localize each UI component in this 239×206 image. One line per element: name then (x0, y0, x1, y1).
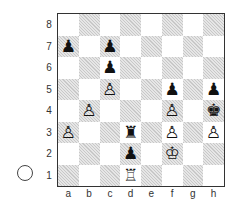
square-f4[interactable]: ♙ (162, 100, 183, 122)
square-e2[interactable] (141, 143, 162, 165)
file-label-g: g (183, 188, 203, 199)
rank-label-8: 8 (44, 19, 54, 30)
rank-label-4: 4 (44, 105, 54, 116)
square-f2[interactable]: ♔ (162, 143, 183, 165)
rank-label-5: 5 (44, 84, 54, 95)
white-king-icon[interactable]: ♔ (165, 145, 180, 162)
square-e7[interactable] (141, 36, 162, 58)
black-king-icon[interactable]: ♚ (206, 102, 221, 119)
square-d4[interactable] (120, 100, 141, 122)
square-g4[interactable] (183, 100, 204, 122)
square-b1[interactable] (79, 165, 100, 187)
file-label-f: f (162, 188, 182, 199)
square-c2[interactable] (100, 143, 121, 165)
square-c8[interactable] (100, 14, 121, 36)
square-f5[interactable]: ♟ (162, 79, 183, 101)
square-d8[interactable] (120, 14, 141, 36)
file-label-a: a (58, 188, 78, 199)
square-h5[interactable]: ♟ (203, 79, 224, 101)
chess-board[interactable]: ♟♟♟♙♟♟♙♙♚♙♜♙♙♟♔♖ (57, 13, 225, 187)
black-pawn-icon[interactable]: ♟ (61, 38, 76, 55)
square-b3[interactable] (79, 122, 100, 144)
white-pawn-icon[interactable]: ♙ (206, 124, 221, 141)
square-f7[interactable] (162, 36, 183, 58)
square-d7[interactable] (120, 36, 141, 58)
square-h4[interactable]: ♚ (203, 100, 224, 122)
black-pawn-icon[interactable]: ♟ (102, 59, 117, 76)
rank-label-7: 7 (44, 41, 54, 52)
white-pawn-icon[interactable]: ♙ (165, 102, 180, 119)
square-d5[interactable] (120, 79, 141, 101)
square-b4[interactable]: ♙ (79, 100, 100, 122)
file-label-h: h (204, 188, 224, 199)
square-a2[interactable] (58, 143, 79, 165)
square-b7[interactable] (79, 36, 100, 58)
square-g2[interactable] (183, 143, 204, 165)
white-pawn-icon[interactable]: ♙ (102, 81, 117, 98)
square-b8[interactable] (79, 14, 100, 36)
square-h7[interactable] (203, 36, 224, 58)
file-label-b: b (79, 188, 99, 199)
square-e5[interactable] (141, 79, 162, 101)
square-d2[interactable]: ♟ (120, 143, 141, 165)
black-pawn-icon[interactable]: ♟ (102, 38, 117, 55)
black-rook-icon[interactable]: ♜ (123, 124, 138, 141)
square-h1[interactable] (203, 165, 224, 187)
rank-label-2: 2 (44, 148, 54, 159)
square-c1[interactable] (100, 165, 121, 187)
square-d6[interactable] (120, 57, 141, 79)
white-to-move-indicator (17, 165, 33, 181)
square-a7[interactable]: ♟ (58, 36, 79, 58)
file-label-e: e (141, 188, 161, 199)
square-a4[interactable] (58, 100, 79, 122)
square-e4[interactable] (141, 100, 162, 122)
square-b2[interactable] (79, 143, 100, 165)
square-a6[interactable] (58, 57, 79, 79)
file-label-c: c (100, 188, 120, 199)
rank-label-1: 1 (44, 170, 54, 181)
square-c5[interactable]: ♙ (100, 79, 121, 101)
square-c3[interactable] (100, 122, 121, 144)
white-pawn-icon[interactable]: ♙ (61, 124, 76, 141)
square-f8[interactable] (162, 14, 183, 36)
square-c4[interactable] (100, 100, 121, 122)
square-h2[interactable] (203, 143, 224, 165)
black-pawn-icon[interactable]: ♟ (165, 81, 180, 98)
white-rook-icon[interactable]: ♖ (123, 167, 138, 184)
square-g1[interactable] (183, 165, 204, 187)
square-h8[interactable] (203, 14, 224, 36)
white-pawn-icon[interactable]: ♙ (82, 102, 97, 119)
rank-label-3: 3 (44, 127, 54, 138)
square-g5[interactable] (183, 79, 204, 101)
square-d3[interactable]: ♜ (120, 122, 141, 144)
square-f6[interactable] (162, 57, 183, 79)
square-a8[interactable] (58, 14, 79, 36)
square-d1[interactable]: ♖ (120, 165, 141, 187)
square-g3[interactable] (183, 122, 204, 144)
square-c6[interactable]: ♟ (100, 57, 121, 79)
square-a1[interactable] (58, 165, 79, 187)
square-e3[interactable] (141, 122, 162, 144)
file-label-d: d (121, 188, 141, 199)
square-h3[interactable]: ♙ (203, 122, 224, 144)
square-b6[interactable] (79, 57, 100, 79)
square-c7[interactable]: ♟ (100, 36, 121, 58)
rank-label-6: 6 (44, 62, 54, 73)
white-pawn-icon[interactable]: ♙ (165, 124, 180, 141)
square-e6[interactable] (141, 57, 162, 79)
square-e1[interactable] (141, 165, 162, 187)
square-f1[interactable] (162, 165, 183, 187)
square-a5[interactable] (58, 79, 79, 101)
black-pawn-icon[interactable]: ♟ (206, 81, 221, 98)
square-g7[interactable] (183, 36, 204, 58)
square-h6[interactable] (203, 57, 224, 79)
square-b5[interactable] (79, 79, 100, 101)
square-f3[interactable]: ♙ (162, 122, 183, 144)
square-g8[interactable] (183, 14, 204, 36)
black-pawn-icon[interactable]: ♟ (123, 145, 138, 162)
square-a3[interactable]: ♙ (58, 122, 79, 144)
square-g6[interactable] (183, 57, 204, 79)
square-e8[interactable] (141, 14, 162, 36)
